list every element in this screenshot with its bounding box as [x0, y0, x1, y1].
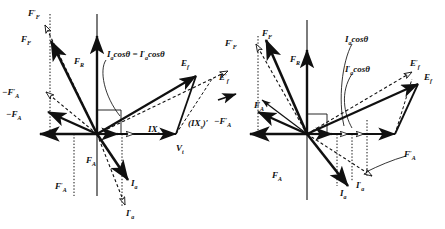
left-vector-FF: [51, 41, 97, 134]
left-vector-FA: [97, 134, 128, 180]
right-vector-Ef-prime-left: [218, 94, 236, 100]
figure-root: F′F FF FR −F′A −FA FA F′A Ia I′a Ef IXs …: [0, 0, 445, 229]
right-annotation-leader-3: [366, 156, 406, 172]
right-vector-FA-prime: [307, 134, 372, 176]
left-panel: F′F FF FR −F′A −FA FA F′A Ia I′a Ef IXs …: [2, 8, 228, 220]
left-label-FF-prime: F′F: [27, 8, 40, 20]
left-label-cos-annotation: Iacosθ = I′acosθ: [106, 49, 165, 61]
right-label-FA: FA: [271, 170, 282, 182]
right-vector-FF-prime: [256, 44, 307, 134]
right-label-Ef-prime: E′f: [409, 58, 421, 70]
left-label-Ef: Ef: [180, 58, 190, 70]
right-vector-Ef-prime: [307, 72, 412, 134]
right-vector-IXs-prime: [395, 79, 412, 134]
left-label-FA-prime: F′A: [54, 181, 67, 193]
left-vector-FF-prime: [45, 25, 97, 134]
left-label-FR: FR: [73, 56, 84, 68]
right-label-cos-annotation-2: I′acosθ: [344, 64, 370, 76]
left-vector-negFA: [48, 112, 97, 134]
right-label-Ef: Ef: [423, 72, 433, 84]
right-label-Ef-prime-left: E′f: [218, 72, 230, 84]
right-label-FA-upper: FA: [253, 100, 264, 112]
left-label-negFA: −FA: [6, 109, 21, 121]
left-label-IXs-prime: (IXs)′: [188, 118, 209, 130]
right-label-FF-prime: F′F: [224, 38, 237, 50]
right-panel: F′F FF FR E′f FA −F′A FA Ia I′a F′A E′f …: [214, 20, 433, 200]
left-label-Ia-prime: I′a: [125, 208, 134, 220]
left-label-Ia: Ia: [130, 178, 138, 190]
left-annotation-leader: [103, 60, 120, 116]
left-label-FF: FF: [20, 34, 31, 46]
left-label-Vt: Vt: [176, 143, 184, 155]
left-label-negFA-prime: −F′A: [2, 87, 19, 99]
right-vector-Ef: [307, 84, 418, 134]
right-vector-FF: [266, 40, 307, 134]
right-label-FA-prime: F′A: [403, 149, 416, 161]
phasor-diagram-svg: F′F FF FR −F′A −FA FA F′A Ia I′a Ef IXs …: [0, 0, 445, 229]
right-label-negFA-prime: −F′A: [214, 116, 231, 128]
right-vector-IXs: [395, 84, 418, 134]
right-label-cos-annotation-1: Iacosθ: [344, 34, 369, 46]
left-vector-Ef: [97, 76, 196, 134]
left-label-FA: FA: [85, 155, 96, 167]
right-label-FR: FR: [289, 54, 300, 66]
right-annotation-leader-2: [344, 74, 352, 128]
right-label-Ia: Ia: [339, 188, 347, 200]
right-vector-FA: [307, 134, 348, 186]
right-label-Ia-prime: I′a: [355, 180, 364, 192]
left-vector-negFA-prime: [46, 92, 97, 134]
right-label-FF: FF: [261, 28, 272, 40]
